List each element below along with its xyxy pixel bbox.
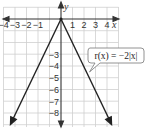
equation-label: r(x) = −2|x| <box>94 51 137 62</box>
y-tick-label: −5 <box>49 73 59 83</box>
y-tick-label: −8 <box>49 108 59 118</box>
y-tick-label: −3 <box>49 50 59 60</box>
y-tick-label: −7 <box>49 97 59 107</box>
x-axis-label: x <box>111 19 117 30</box>
x-tick-label: −3 <box>10 20 20 30</box>
equation-callout: r(x) = −2|x| <box>88 48 144 72</box>
y-tick-label: −6 <box>49 85 59 95</box>
y-axis <box>59 2 64 127</box>
x-tick-label: −4 <box>0 20 9 30</box>
vertex-point <box>59 17 62 20</box>
y-tick-labels: −3 −4 −5 −6 −7 −8 <box>49 50 59 119</box>
x-tick-label: −2 <box>21 20 31 30</box>
x-tick-label: 2 <box>81 20 86 30</box>
graph: y x −4 −3 −2 −1 1 2 3 4 −3 −4 −5 −6 −7 −… <box>0 0 147 129</box>
x-tick-label: 1 <box>70 20 75 30</box>
y-tick-label: −4 <box>49 61 59 71</box>
x-tick-label: 4 <box>104 20 109 30</box>
x-tick-label: 3 <box>93 20 98 30</box>
y-axis-label: y <box>63 1 69 12</box>
x-tick-label: −1 <box>33 20 43 30</box>
x-tick-labels: −4 −3 −2 −1 1 2 3 4 <box>0 20 110 30</box>
